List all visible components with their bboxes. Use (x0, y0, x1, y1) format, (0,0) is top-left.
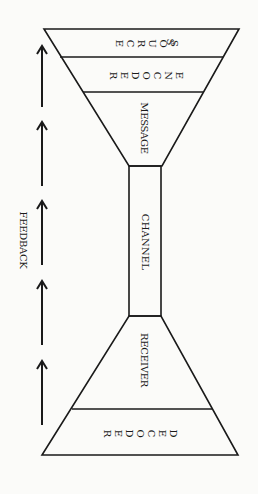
encoder-letter: N (163, 70, 174, 80)
feedback-arrows (37, 46, 47, 425)
decoder-letter: D (124, 428, 135, 438)
decoder-stack: D E C O D E R (90, 413, 190, 453)
source-letter: C (124, 38, 135, 48)
encoder-letter: E (119, 70, 130, 80)
feedback-label: FEEDBACK (17, 200, 29, 280)
decoder-letter: R (102, 428, 113, 438)
receiver-label: RECEIVER (138, 320, 150, 400)
source-letter: O (157, 38, 168, 48)
source-stack: S O U R C E (106, 30, 186, 56)
decoder-letter: O (135, 428, 146, 438)
arrow-up-icon (37, 281, 47, 345)
encoder-stack: E N C O D E R (98, 60, 194, 90)
source-letter: U (146, 38, 157, 48)
source-letter: S (168, 38, 179, 48)
decoder-letter: E (157, 428, 168, 438)
decoder-letter: D (168, 428, 179, 438)
arrow-up-icon (37, 201, 47, 265)
source-letter: R (135, 38, 146, 48)
encoder-letter: R (108, 70, 119, 80)
source-letter: E (113, 38, 124, 48)
decoder-letter: E (113, 428, 124, 438)
arrow-up-icon (37, 46, 47, 107)
encoder-letter: O (141, 70, 152, 80)
decoder-letter: C (146, 428, 157, 438)
message-label: MESSAGE (138, 93, 150, 163)
encoder-letter: D (130, 70, 141, 80)
encoder-letter: E (174, 70, 185, 80)
encoder-letter: C (152, 70, 163, 80)
arrow-up-icon (37, 122, 47, 186)
arrow-up-icon (37, 361, 47, 425)
channel-label: CHANNEL (139, 202, 151, 282)
